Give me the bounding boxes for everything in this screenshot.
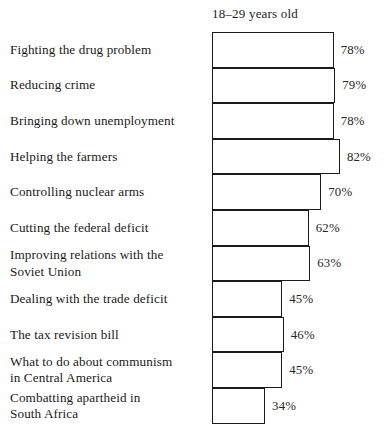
category-label-line: Combatting apartheid in	[10, 390, 141, 405]
category-label-line: What to do about communism	[10, 354, 172, 369]
bar-value-label: 78%	[334, 42, 365, 57]
chart-row: Fighting the drug problem78%	[0, 32, 390, 68]
chart-row: Reducing crime79%	[0, 68, 390, 104]
category-label-line: Helping the farmers	[10, 148, 117, 163]
category-label: Dealing with the trade deficit	[10, 291, 208, 307]
category-label: Fighting the drug problem	[10, 42, 208, 58]
bar-chart: 18–29 years old Fighting the drug proble…	[0, 0, 390, 445]
bar	[212, 246, 310, 282]
bar-value-label: 78%	[334, 113, 365, 128]
bar-value-label: 62%	[309, 220, 340, 235]
bar	[212, 317, 284, 353]
bar	[212, 210, 309, 246]
category-label-line: Soviet Union	[10, 263, 81, 278]
bar	[212, 281, 282, 317]
bar	[212, 352, 282, 388]
category-label: Helping the farmers	[10, 148, 208, 164]
category-label: The tax revision bill	[10, 326, 208, 342]
chart-rows: Fighting the drug problem78%Reducing cri…	[0, 32, 390, 424]
chart-row: Dealing with the trade deficit45%	[0, 281, 390, 317]
category-label: Combatting apartheid inSouth Africa	[10, 390, 208, 422]
category-label-line: in Central America	[10, 370, 112, 385]
bar-value-label: 63%	[310, 256, 341, 271]
bar-value-label: 70%	[321, 185, 352, 200]
bar-value-label: 79%	[335, 78, 366, 93]
category-label-line: Bringing down unemployment	[10, 113, 175, 128]
category-label-line: South Africa	[10, 406, 78, 421]
bar-value-label: 45%	[282, 363, 313, 378]
category-label: Bringing down unemployment	[10, 113, 208, 129]
bar	[212, 139, 340, 175]
chart-row: Controlling nuclear arms70%	[0, 174, 390, 210]
chart-row: Improving relations with theSoviet Union…	[0, 246, 390, 282]
bar-value-label: 82%	[340, 149, 371, 164]
bar-value-label: 45%	[282, 291, 313, 306]
category-label-line: Reducing crime	[10, 77, 95, 92]
category-label: Reducing crime	[10, 77, 208, 93]
bar-value-label: 34%	[265, 398, 296, 413]
chart-row: What to do about communismin Central Ame…	[0, 352, 390, 388]
bar	[212, 174, 321, 210]
category-label: What to do about communismin Central Ame…	[10, 354, 208, 386]
category-label-line: Fighting the drug problem	[10, 42, 151, 57]
bar	[212, 32, 334, 68]
chart-title: 18–29 years old	[212, 6, 390, 22]
bar	[212, 68, 335, 104]
chart-row: Combatting apartheid inSouth Africa34%	[0, 388, 390, 424]
bar	[212, 103, 334, 139]
category-label: Improving relations with theSoviet Union	[10, 247, 208, 279]
category-label: Cutting the federal deficit	[10, 220, 208, 236]
category-label-line: The tax revision bill	[10, 326, 119, 341]
bar	[212, 388, 265, 424]
chart-row: Bringing down unemployment78%	[0, 103, 390, 139]
chart-row: Cutting the federal deficit62%	[0, 210, 390, 246]
bar-value-label: 46%	[284, 327, 315, 342]
category-label-line: Improving relations with the	[10, 247, 163, 262]
category-label-line: Controlling nuclear arms	[10, 184, 144, 199]
chart-row: Helping the farmers82%	[0, 139, 390, 175]
category-label: Controlling nuclear arms	[10, 184, 208, 200]
category-label-line: Dealing with the trade deficit	[10, 291, 168, 306]
chart-row: The tax revision bill46%	[0, 317, 390, 353]
category-label-line: Cutting the federal deficit	[10, 220, 149, 235]
